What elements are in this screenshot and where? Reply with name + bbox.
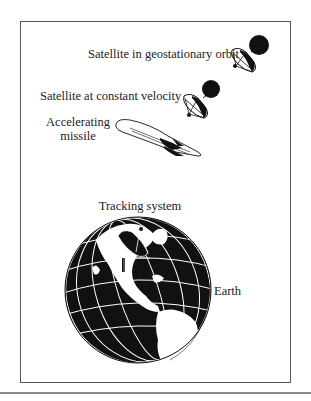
tracking-system-label: Tracking system (90, 199, 190, 213)
missile-icon (116, 120, 201, 157)
globe-icon (47, 198, 229, 381)
const-satellite-label: Satellite at constant velocity (40, 89, 180, 103)
geo-satellite-label: Satellite in geostationary orbit (88, 47, 228, 61)
const-satellite-icon (184, 80, 220, 118)
missile-label-line1: Accelerating (40, 115, 116, 129)
earth-label: Earth (214, 284, 241, 298)
missile-label-line2: missile (40, 129, 116, 143)
